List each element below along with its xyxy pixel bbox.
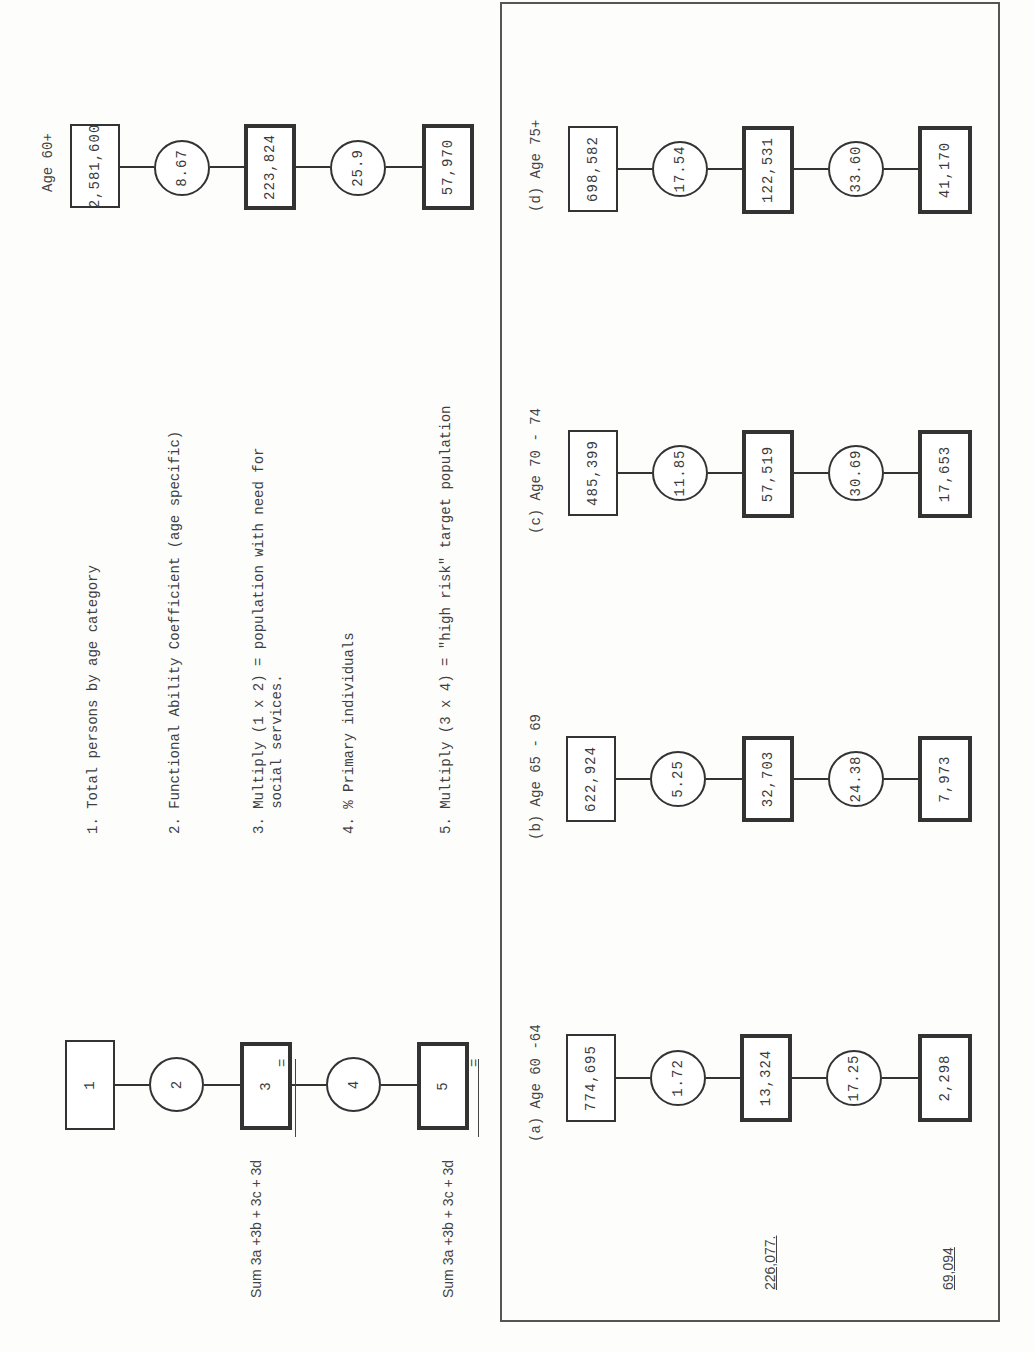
sum-high-risk-blank (478, 1059, 479, 1137)
rotated-page: 1 2 3 4 5 Sum 3a +3b + 3c + 3d = Sum 3a … (0, 0, 1034, 1352)
connector (210, 166, 244, 168)
group-b-coefficient-circle: 5.25 (650, 751, 706, 807)
group-d-pct-primary-circle: 33.60 (828, 141, 884, 197)
key-step-5-box: 5 (417, 1042, 469, 1130)
connector (120, 166, 154, 168)
sum-formula-high-risk-equals: = (466, 1059, 482, 1067)
legend-item-5: 5. Multiply (3 x 4) = "high risk" target… (437, 406, 455, 834)
overall-coefficient-circle: 8.67 (154, 140, 210, 196)
connector (792, 1077, 826, 1079)
connector (708, 472, 742, 474)
legend-item-4: 4. % Primary individuals (340, 632, 358, 834)
group-c-need-population-box: 57,519 (742, 430, 794, 518)
group-d-need-population-box: 122,531 (742, 126, 794, 214)
group-c-pct-primary-circle: 30.69 (828, 445, 884, 501)
connector (706, 778, 742, 780)
sum-formula-need: Sum 3a +3b + 3c + 3d (248, 1160, 264, 1298)
group-a-label: (a) Age 60 -64 (528, 1024, 544, 1142)
group-a-need-population-box: 13,324 (740, 1034, 792, 1122)
legend-item-2: 2. Functional Ability Coefficient (age s… (166, 431, 184, 834)
group-a-pct-primary-circle: 17.25 (826, 1050, 882, 1106)
group-a-coefficient-circle: 1.72 (650, 1050, 706, 1106)
overall-age-label: Age 60+ (40, 133, 56, 192)
legend-item-1: 1. Total persons by age category (84, 565, 102, 834)
overall-need-population-box: 223,824 (244, 124, 296, 210)
connector (204, 1084, 240, 1086)
connector (618, 168, 652, 170)
connector (884, 778, 918, 780)
overall-total-persons-box: 2,581,600 (70, 124, 120, 208)
group-d-total-persons-box: 698,582 (568, 126, 618, 212)
group-c-high-risk-box: 17,653 (918, 430, 972, 518)
connector (708, 168, 742, 170)
group-d-coefficient-circle: 17.54 (652, 141, 708, 197)
overall-pct-primary-circle: 25.9 (330, 140, 386, 196)
key-step-4-circle: 4 (326, 1057, 381, 1112)
group-b-total-persons-box: 622,924 (566, 736, 616, 822)
key-step-2-circle: 2 (149, 1057, 204, 1112)
overall-high-risk-box: 57,970 (422, 124, 474, 210)
legend-item-3: 3. Multiply (1 x 2) = population with ne… (250, 448, 286, 834)
connector (794, 778, 828, 780)
group-b-high-risk-box: 7,973 (918, 736, 972, 822)
connector (115, 1084, 149, 1086)
connector (386, 166, 422, 168)
group-d-label: (d) Age 75+ (528, 120, 544, 212)
group-b-pct-primary-circle: 24.38 (828, 751, 884, 807)
connector (794, 168, 828, 170)
group-a-high-risk-box: 2,298 (918, 1034, 972, 1122)
group-c-label: (c) Age 70 - 74 (528, 408, 544, 534)
connector (616, 1077, 650, 1079)
connector (884, 168, 918, 170)
group-b-need-population-box: 32,703 (742, 736, 794, 822)
connector (296, 166, 330, 168)
connector (381, 1084, 417, 1086)
total-high-risk: 69,094 (940, 1247, 956, 1290)
connector (616, 778, 650, 780)
connector (618, 472, 652, 474)
connector (882, 1077, 918, 1079)
group-a-total-persons-box: 774,695 (566, 1034, 616, 1122)
connector (292, 1084, 326, 1086)
total-need-population: 226,077. (762, 1236, 778, 1291)
sum-formula-need-equals: = (274, 1059, 290, 1067)
group-d-high-risk-box: 41,170 (918, 126, 972, 214)
connector (706, 1077, 740, 1079)
connector (884, 472, 918, 474)
sum-formula-high-risk: Sum 3a +3b + 3c + 3d (440, 1160, 456, 1298)
connector (794, 472, 828, 474)
key-step-3-box: 3 (240, 1042, 292, 1130)
key-step-1-box: 1 (65, 1040, 115, 1130)
group-c-total-persons-box: 485,399 (568, 430, 618, 516)
group-c-coefficient-circle: 11.85 (652, 445, 708, 501)
group-b-label: (b) Age 65 - 69 (528, 714, 544, 840)
sum-need-blank (295, 1059, 296, 1137)
